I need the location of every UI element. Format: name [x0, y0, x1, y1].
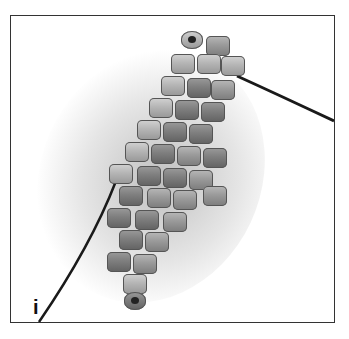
- bead: [173, 190, 197, 210]
- bead: [203, 186, 227, 206]
- bead: [119, 230, 143, 250]
- bead: [187, 78, 211, 98]
- bead: [203, 148, 227, 168]
- bead: [125, 142, 149, 162]
- bead: [135, 210, 159, 230]
- bead: [163, 168, 187, 188]
- bead: [201, 102, 225, 122]
- bead: [189, 124, 213, 144]
- bead: [123, 274, 147, 294]
- bead: [137, 166, 161, 186]
- bead: [119, 186, 143, 206]
- bead: [163, 212, 187, 232]
- bead: [107, 208, 131, 228]
- bead: [171, 54, 195, 74]
- bead: [133, 254, 157, 274]
- bead: [147, 188, 171, 208]
- bead: [177, 146, 201, 166]
- bead: [107, 252, 131, 272]
- bead: [124, 292, 146, 310]
- bead: [197, 54, 221, 74]
- bead: [163, 122, 187, 142]
- bead: [211, 80, 235, 100]
- bead: [149, 98, 173, 118]
- panel-label: i: [33, 296, 39, 319]
- bead: [137, 120, 161, 140]
- bead: [151, 144, 175, 164]
- bead: [109, 164, 133, 184]
- bead: [181, 31, 203, 49]
- bead: [175, 100, 199, 120]
- bead: [206, 36, 230, 56]
- photo-frame: i: [10, 15, 335, 323]
- bead: [221, 56, 245, 76]
- bead: [161, 76, 185, 96]
- bead: [145, 232, 169, 252]
